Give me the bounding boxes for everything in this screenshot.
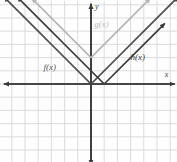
x-axis-label: x <box>165 71 169 79</box>
coordinate-plane <box>0 0 177 162</box>
graph-figure: f(x) g(x) h(x) x y <box>0 0 177 162</box>
curve-label-h: h(x) <box>131 53 146 62</box>
curve-label-f: f(x) <box>43 63 56 72</box>
curve-gx-left-branch <box>32 0 91 58</box>
curve-gx-right-branch <box>91 0 150 58</box>
y-axis-label: y <box>95 3 99 11</box>
curve-label-g: g(x) <box>94 20 109 29</box>
